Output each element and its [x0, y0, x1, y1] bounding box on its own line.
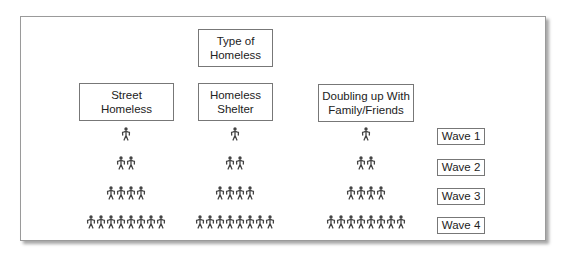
person-icon	[397, 215, 406, 229]
person-icon	[246, 215, 255, 229]
person-icon	[216, 215, 225, 229]
person-icon	[236, 156, 245, 170]
person-icon	[157, 215, 166, 229]
people-row-wave-3	[107, 186, 146, 200]
people-row-wave-1	[122, 127, 131, 141]
wave-label-2: Wave 2	[437, 159, 485, 176]
person-icon	[266, 215, 275, 229]
person-icon	[87, 215, 96, 229]
person-icon	[216, 186, 225, 200]
person-icon	[226, 186, 235, 200]
people-row-wave-2	[226, 156, 245, 170]
person-icon	[357, 156, 366, 170]
person-icon	[107, 215, 116, 229]
person-icon	[226, 156, 235, 170]
person-icon	[236, 215, 245, 229]
people-row-wave-1	[231, 127, 240, 141]
person-icon	[122, 127, 131, 141]
person-icon	[107, 186, 116, 200]
people-row-wave-1	[362, 127, 371, 141]
person-icon	[127, 186, 136, 200]
person-icon	[137, 215, 146, 229]
category-box-homeless-shelter: Homeless Shelter	[198, 83, 273, 121]
person-icon	[377, 186, 386, 200]
people-row-wave-4	[327, 215, 406, 229]
person-icon	[362, 127, 371, 141]
person-icon	[347, 215, 356, 229]
person-icon	[387, 215, 396, 229]
person-icon	[377, 215, 386, 229]
person-icon	[347, 186, 356, 200]
person-icon	[127, 156, 136, 170]
person-icon	[226, 215, 235, 229]
person-icon	[367, 156, 376, 170]
person-icon	[97, 215, 106, 229]
person-icon	[327, 215, 336, 229]
person-icon	[206, 215, 215, 229]
person-icon	[196, 215, 205, 229]
people-row-wave-4	[87, 215, 166, 229]
root-box-type-of-homeless: Type of Homeless	[198, 29, 273, 67]
person-icon	[357, 215, 366, 229]
people-row-wave-3	[347, 186, 386, 200]
wave-label-1: Wave 1	[437, 128, 485, 145]
person-icon	[117, 156, 126, 170]
person-icon	[357, 186, 366, 200]
person-icon	[137, 186, 146, 200]
person-icon	[117, 215, 126, 229]
person-icon	[337, 215, 346, 229]
wave-label-3: Wave 3	[437, 188, 485, 205]
category-box-street-homeless: Street Homeless	[79, 83, 174, 121]
people-row-wave-4	[196, 215, 275, 229]
people-row-wave-3	[216, 186, 255, 200]
people-row-wave-2	[117, 156, 136, 170]
person-icon	[367, 186, 376, 200]
category-box-doubling-up: Doubling up With Family/Friends	[318, 84, 414, 122]
wave-label-4: Wave 4	[437, 217, 485, 234]
person-icon	[127, 215, 136, 229]
person-icon	[367, 215, 376, 229]
person-icon	[231, 127, 240, 141]
person-icon	[256, 215, 265, 229]
person-icon	[147, 215, 156, 229]
people-row-wave-2	[357, 156, 376, 170]
person-icon	[117, 186, 126, 200]
person-icon	[246, 186, 255, 200]
person-icon	[236, 186, 245, 200]
